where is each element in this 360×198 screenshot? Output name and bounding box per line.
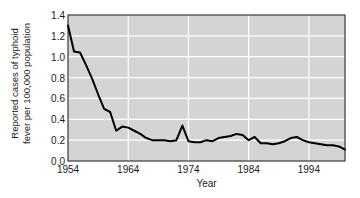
chart-figure: Reported cases of typhoid fever per 100,… — [0, 0, 360, 198]
plot-background — [68, 15, 345, 161]
chart-plot-area — [0, 0, 360, 198]
